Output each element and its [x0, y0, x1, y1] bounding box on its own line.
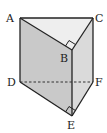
label-a: A: [5, 12, 15, 25]
label-b: B: [60, 52, 68, 65]
label-f: F: [95, 76, 103, 89]
label-d: D: [7, 76, 16, 89]
prism-diagram: A C B D F E: [0, 0, 107, 133]
label-c: C: [95, 12, 103, 25]
label-e: E: [67, 119, 75, 132]
